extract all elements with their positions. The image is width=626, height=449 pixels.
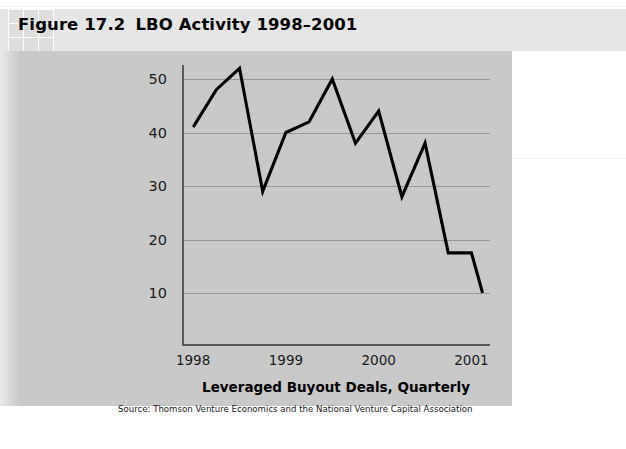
x-axis-title: Leveraged Buyout Deals, Quarterly: [202, 379, 470, 395]
figure-container: Figure 17.2LBO Activity 1998–2001 Source…: [0, 0, 626, 449]
y-axis-tick-label: 50: [149, 71, 167, 87]
chart-panel-left-fade: [0, 51, 20, 406]
figure-number: Figure 17.2: [18, 15, 125, 34]
plot-area: 5040302010 1998199920002001 Leveraged Bu…: [182, 79, 490, 344]
y-axis-tick-label: 20: [149, 232, 167, 248]
x-axis-line: [182, 344, 490, 346]
x-axis-tick-label: 1998: [176, 352, 210, 368]
figure-title-text: LBO Activity 1998–2001: [135, 15, 357, 34]
y-axis-tick-label: 10: [149, 285, 167, 301]
x-axis-tick-label: 1999: [269, 352, 303, 368]
y-axis-tick-label: 40: [149, 125, 167, 141]
data-series-line: [182, 65, 490, 344]
page-title: Figure 17.2LBO Activity 1998–2001: [18, 15, 357, 34]
source-note: Source: Thomson Venture Economics and th…: [118, 404, 473, 414]
x-axis-tick-label: 2000: [361, 352, 395, 368]
page-rule-top: [0, 6, 626, 7]
x-axis-tick-label: 2001: [454, 352, 488, 368]
y-axis-tick-label: 30: [149, 178, 167, 194]
